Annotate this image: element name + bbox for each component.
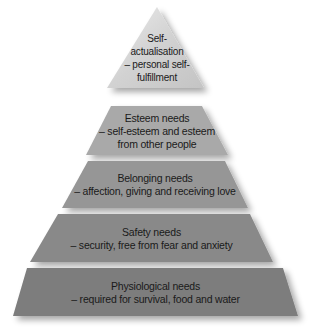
tier-title: Physiological needs (13, 280, 298, 293)
tier-physiological-label: Physiological needs – required for survi… (13, 280, 298, 306)
tier-title: Safety needs (30, 226, 273, 239)
tier-text-line: Self- (107, 32, 207, 45)
tier-title: Esteem needs (86, 112, 228, 125)
tier-esteem-label: Esteem needs – self-esteem and esteem fr… (86, 112, 228, 151)
tier-title: Belonging needs (60, 172, 250, 185)
tier-self-actualisation-label: Self- actualisation – personal self- ful… (107, 32, 207, 84)
tier-text-line: fulfillment (107, 71, 207, 84)
tier-safety-label: Safety needs – security, free from fear … (30, 226, 273, 252)
tier-text-line: from other people (86, 138, 228, 151)
tier-text-line: – security, free from fear and anxiety (30, 239, 273, 252)
tier-text-line: – affection, giving and receiving love (60, 185, 250, 198)
tier-text-line: – required for survival, food and water (13, 293, 298, 306)
tier-text-line: – personal self- (107, 58, 207, 71)
tier-belonging-label: Belonging needs – affection, giving and … (60, 172, 250, 198)
tier-text-line: actualisation (107, 45, 207, 58)
tier-text-line: – self-esteem and esteem (86, 125, 228, 138)
